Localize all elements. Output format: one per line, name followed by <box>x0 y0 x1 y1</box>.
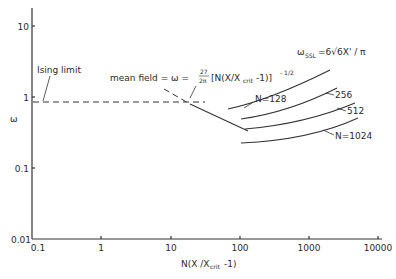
ising-pointer <box>43 76 50 101</box>
svg-text:-1)]: -1)] <box>256 73 272 83</box>
mean-field-pointer <box>190 86 196 98</box>
ssl-label: ω SSL =6√6X' / π <box>297 47 366 59</box>
mean-field-label: mean field = ω = 27 2π [N(X/X crit -1)] … <box>110 68 294 84</box>
pointer-n1024 <box>323 130 334 135</box>
svg-text:N(X /X: N(X /X <box>181 259 209 269</box>
label-n256: 256 <box>335 90 352 100</box>
svg-text:ω: ω <box>297 47 305 57</box>
label-n128: N=128 <box>255 94 287 104</box>
svg-text:crit: crit <box>243 77 253 84</box>
svg-text:-1): -1) <box>224 259 237 269</box>
svg-text:[N(X/X: [N(X/X <box>211 73 240 83</box>
svg-text:SSL: SSL <box>305 52 317 59</box>
svg-text:2π: 2π <box>199 77 207 84</box>
plot-area: 10 1 0.1 0.01 0.1 1 10 100 1000 10000 ω … <box>0 0 396 279</box>
svg-text:27: 27 <box>200 68 208 75</box>
chart: 10 1 0.1 0.01 0.1 1 10 100 1000 10000 ω … <box>0 0 396 279</box>
pointer-n256 <box>326 93 334 95</box>
y-tick-10: 10 <box>18 22 30 32</box>
y-tick-0.01: 0.01 <box>11 235 31 245</box>
ising-label: Ising limit <box>37 65 81 75</box>
y-tick-1: 1 <box>23 93 29 103</box>
label-n1024: N=1024 <box>335 131 372 141</box>
svg-text:mean field = ω =: mean field = ω = <box>110 73 189 83</box>
svg-text:crit: crit <box>210 263 220 270</box>
x-axis-title: N(X /X crit -1) <box>181 259 237 270</box>
y-axis-title: ω <box>10 114 18 124</box>
label-n512: 512 <box>347 106 364 116</box>
x-tick-100: 100 <box>231 243 248 253</box>
x-tick-1000: 1000 <box>298 243 321 253</box>
mean-field-line <box>190 104 248 131</box>
x-tick-10000: 10000 <box>364 243 393 253</box>
x-tick-10: 10 <box>165 243 177 253</box>
x-tick-0.1: 0.1 <box>31 243 45 253</box>
x-tick-1: 1 <box>98 243 104 253</box>
curve-n512 <box>245 103 355 129</box>
svg-text:- 1/2: - 1/2 <box>280 69 294 76</box>
y-ticks: 10 1 0.1 0.01 <box>11 22 35 245</box>
y-tick-0.1: 0.1 <box>15 164 29 174</box>
svg-text:=6√6X' / π: =6√6X' / π <box>318 47 366 57</box>
